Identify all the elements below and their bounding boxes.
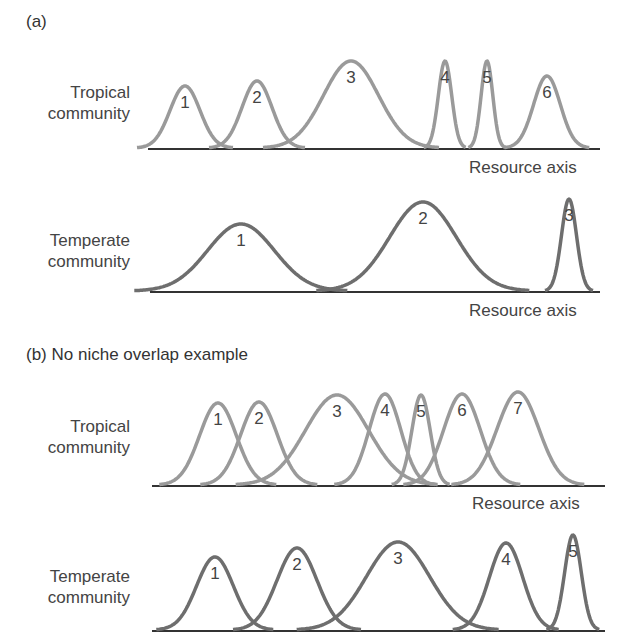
species-number-label: 5 [416,402,425,421]
panel-a-tropical-curves: 123456 [137,61,600,149]
niche-diagram: 123456123123456712345 [0,0,627,636]
species-number-label: 1 [210,564,219,583]
species-number-label: 2 [418,209,427,228]
species-number-label: 6 [457,401,466,420]
species-number-label: 3 [346,68,355,87]
species-number-label: 1 [180,93,189,112]
panel-a-temperate-curves: 123 [134,199,600,292]
species-number-label: 3 [332,402,341,421]
panel-b-temperate-curves: 12345 [152,535,605,631]
species-number-label: 2 [292,555,301,574]
species-number-label: 6 [542,83,551,102]
panel-b-tropical-curves: 1234567 [152,392,605,486]
species-number-label: 3 [393,549,402,568]
species-number-label: 2 [254,409,263,428]
species-number-label: 4 [440,68,449,87]
species-number-label: 3 [564,206,573,225]
species-number-label: 7 [513,399,522,418]
species-number-label: 4 [380,401,389,420]
species-number-label: 1 [236,231,245,250]
species-number-label: 4 [501,550,510,569]
species-number-label: 2 [252,88,261,107]
species-number-label: 5 [482,68,491,87]
species-number-label: 1 [213,410,222,429]
species-number-label: 5 [568,542,577,561]
